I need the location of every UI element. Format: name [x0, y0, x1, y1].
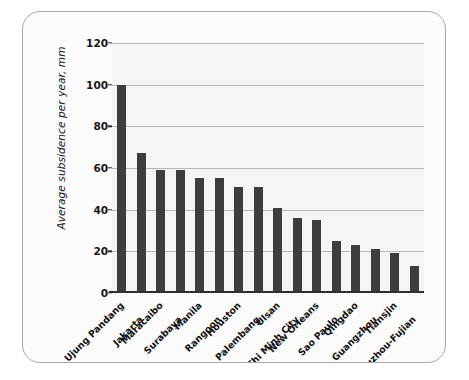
chart-figure-frame: Average subsidence per year, mm 12010080… — [22, 11, 446, 363]
gridline — [112, 85, 424, 86]
gridline — [112, 168, 424, 169]
y-axis-tick-label: 80 — [74, 120, 108, 132]
bar[interactable] — [156, 170, 165, 293]
y-axis-tick-labels: 120100806040200 — [68, 43, 108, 293]
x-axis-tick-labels: Ujung PandangJakartaMaracaiboSurabayaMan… — [112, 295, 442, 363]
bar[interactable] — [117, 85, 126, 293]
bar[interactable] — [215, 178, 224, 293]
y-axis-tick-label: 20 — [74, 245, 108, 257]
x-axis-line — [109, 291, 424, 293]
bar[interactable] — [176, 170, 185, 293]
bar[interactable] — [351, 245, 360, 293]
bar[interactable] — [137, 153, 146, 293]
gridline — [112, 43, 424, 44]
bar[interactable] — [371, 249, 380, 293]
bar[interactable] — [254, 187, 263, 293]
y-axis-tick-label: 60 — [74, 162, 108, 174]
y-axis-title: Average subsidence per year, mm — [55, 38, 67, 238]
plot-area — [112, 43, 424, 293]
y-axis-tick-label: 0 — [74, 287, 108, 299]
bar[interactable] — [293, 218, 302, 293]
y-axis-tick-label: 100 — [74, 79, 108, 91]
bar[interactable] — [332, 241, 341, 293]
bar[interactable] — [312, 220, 321, 293]
bar[interactable] — [195, 178, 204, 293]
bar[interactable] — [390, 253, 399, 293]
y-axis-tick-label: 40 — [74, 204, 108, 216]
bar[interactable] — [410, 266, 419, 293]
bar[interactable] — [234, 187, 243, 293]
bar[interactable] — [273, 208, 282, 293]
gridline — [112, 126, 424, 127]
y-axis-tick-label: 120 — [74, 37, 108, 49]
